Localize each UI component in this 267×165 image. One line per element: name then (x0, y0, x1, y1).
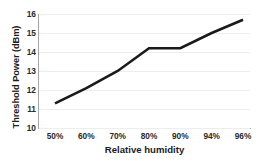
x-tick-label: 80% (134, 131, 164, 142)
y-tick-label: 11 (22, 105, 36, 114)
data-series-line (39, 14, 250, 128)
x-axis-title: Relative humidity (39, 144, 250, 156)
x-tick-label: 94% (197, 131, 227, 142)
x-axis-tick-labels: 50%60%70%80%90%94%96% (39, 131, 250, 143)
x-tick-label: 70% (103, 131, 133, 142)
y-tick-label: 15 (22, 29, 36, 38)
y-axis-tick-labels: 10111213141516 (22, 8, 36, 134)
y-tick-label: 14 (22, 48, 36, 57)
gridline (39, 128, 250, 129)
y-axis-title: Threshold Power (dBm) (9, 12, 23, 142)
y-tick-label: 16 (22, 10, 36, 19)
x-tick-label: 90% (165, 131, 195, 142)
x-tick-label: 96% (228, 131, 258, 142)
y-tick-label: 12 (22, 86, 36, 95)
y-tick-label: 10 (22, 124, 36, 133)
x-tick-label: 60% (71, 131, 101, 142)
x-tick-label: 50% (40, 131, 70, 142)
plot-area (39, 14, 250, 128)
y-tick-label: 13 (22, 67, 36, 76)
chart-container: Threshold Power (dBm) 10111213141516 50%… (0, 0, 267, 165)
